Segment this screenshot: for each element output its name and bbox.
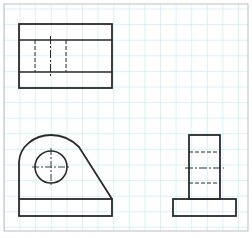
- drawing-sheet: [0, 0, 252, 238]
- grid-background: [4, 4, 248, 231]
